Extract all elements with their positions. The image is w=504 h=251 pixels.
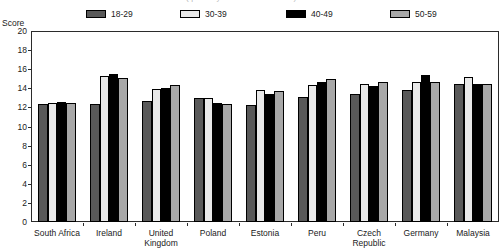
legend-swatch-icon [180, 10, 200, 18]
bar-50-59-Malaysia [482, 84, 491, 222]
y-tick-label: 18 [2, 46, 27, 54]
x-tick-mark [187, 223, 188, 226]
legend-item-30-39[interactable]: 30-39 [180, 8, 227, 20]
bar-18-29-Estonia [246, 105, 255, 222]
bar-40-49-Estonia [265, 94, 274, 222]
y-tick-label: 8 [2, 142, 27, 150]
x-tick-mark [343, 223, 344, 226]
cutoff-ghost-text: ( partially cut-off header row ) [186, 0, 296, 2]
bar-40-49-Malaysia [473, 84, 482, 222]
bar-50-59-Estonia [274, 91, 283, 222]
y-tick-mark [28, 165, 31, 166]
y-tick-label: 0 [2, 218, 27, 226]
bar-18-29-Peru [298, 97, 307, 222]
bar-30-39-United-Kingdom [152, 89, 161, 222]
y-tick-mark [28, 203, 31, 204]
bar-30-39-Malaysia [464, 77, 473, 222]
bar-18-29-Ireland [90, 104, 99, 222]
top-cutoff-band: ( partially cut-off header row ) [0, 0, 504, 7]
legend-label: 18-29 [111, 9, 133, 19]
legend-item-50-59[interactable]: 50-59 [390, 8, 437, 20]
bar-18-29-South Africa [38, 104, 47, 222]
x-tick-mark [447, 223, 448, 226]
legend-swatch-icon [286, 10, 306, 18]
y-tick-label: 20 [2, 27, 27, 35]
legend-swatch-icon [86, 10, 106, 18]
bar-40-49-Poland [213, 103, 222, 222]
bar-50-59-Germany [430, 82, 439, 222]
bar-30-39-Ireland [100, 76, 109, 222]
bar-50-59-Ireland [118, 78, 127, 222]
y-tick-label: 6 [2, 161, 27, 169]
legend-label: 40-49 [311, 9, 333, 19]
y-tick-mark [28, 88, 31, 89]
bar-40-49-Ireland [109, 74, 118, 222]
bar-18-29-Germany [402, 90, 411, 222]
bar-18-29-Czech-Republic [350, 94, 359, 222]
bar-50-59-Poland [222, 104, 231, 222]
x-tick-mark [395, 223, 396, 226]
bar-40-49-Czech-Republic [369, 86, 378, 222]
bar-50-59-Peru [326, 79, 335, 222]
bar-40-49-Germany [421, 75, 430, 222]
y-tick-mark [28, 69, 31, 70]
y-tick-label: 12 [2, 103, 27, 111]
bar-50-59-South Africa [66, 103, 75, 222]
bar-40-49-Peru [317, 82, 326, 222]
y-tick-mark [28, 127, 31, 128]
bar-30-39-Germany [412, 82, 421, 222]
legend-label: 50-59 [415, 9, 437, 19]
y-tick-label: 14 [2, 84, 27, 92]
y-tick-label: 16 [2, 65, 27, 73]
y-tick-label: 2 [2, 199, 27, 207]
bar-50-59-Czech-Republic [378, 82, 387, 222]
bar-30-39-South Africa [48, 103, 57, 222]
bar-18-29-Malaysia [454, 84, 463, 222]
legend-item-40-49[interactable]: 40-49 [286, 8, 333, 20]
bar-30-39-Peru [308, 85, 317, 222]
x-tick-mark [83, 223, 84, 226]
chart-legend: 18-2930-3940-4950-59 [0, 8, 504, 20]
y-tick-mark [28, 146, 31, 147]
bar-50-59-United-Kingdom [170, 85, 179, 222]
legend-swatch-icon [390, 10, 410, 18]
x-tick-mark [291, 223, 292, 226]
bar-18-29-United-Kingdom [142, 101, 151, 222]
y-tick-label: 10 [2, 123, 27, 131]
bar-30-39-Poland [204, 98, 213, 222]
legend-item-18-29[interactable]: 18-29 [86, 8, 133, 20]
x-tick-mark [239, 223, 240, 226]
bar-40-49-South Africa [57, 102, 66, 222]
y-tick-label: 4 [2, 180, 27, 188]
bar-30-39-Estonia [256, 90, 265, 222]
y-tick-mark [28, 184, 31, 185]
y-tick-mark [28, 107, 31, 108]
bar-chart: ( partially cut-off header row ) 18-2930… [0, 0, 504, 251]
bar-40-49-United-Kingdom [161, 88, 170, 222]
bar-18-29-Poland [194, 98, 203, 222]
x-category-label: Malaysia [441, 228, 504, 238]
bar-30-39-Czech-Republic [360, 84, 369, 222]
y-tick-mark [28, 50, 31, 51]
x-tick-mark [135, 223, 136, 226]
legend-label: 30-39 [205, 9, 227, 19]
